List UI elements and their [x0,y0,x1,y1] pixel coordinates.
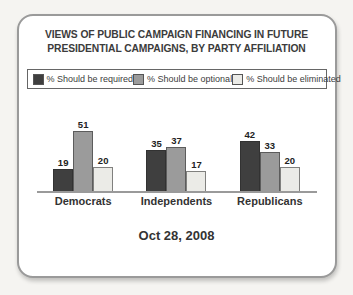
plot-area: 195120353717423320 DemocratsIndependents… [37,113,317,207]
legend-item-2: % Should be optional [133,74,232,85]
bar-group-democrats: 195120 [53,119,113,191]
bar-value-label: 37 [171,135,182,146]
bar-value-label: 33 [265,140,276,151]
bar-republicans-series-3 [280,167,300,191]
bar-independents-series-3 [186,171,206,191]
bar-group-republicans: 423320 [240,129,300,191]
bar-value-label: 35 [151,138,162,149]
bar-column: 19 [53,157,73,191]
chart-title: VIEWS OF PUBLIC CAMPAIGN FINANCING IN FU… [27,28,327,56]
bar-republicans-series-2 [260,152,280,191]
bar-value-label: 20 [98,155,109,166]
bar-groups: 195120353717423320 [37,113,317,191]
date-label: Oct 28, 2008 [27,228,327,243]
bar-value-label: 20 [285,155,296,166]
category-label-republicans: Republicans [223,195,316,207]
bar-column: 35 [146,138,166,191]
legend-item-3: % Should be eliminated [232,74,341,85]
bar-democrats-series-2 [73,131,93,191]
bar-value-label: 19 [58,157,69,168]
bar-independents-series-1 [146,150,166,191]
legend-label: % Should be required [47,74,134,84]
x-axis-line [37,191,317,193]
chart-card: VIEWS OF PUBLIC CAMPAIGN FINANCING IN FU… [17,14,337,278]
bar-column: 17 [186,159,206,191]
bar-republicans-series-1 [240,141,260,191]
legend-swatch-icon [33,74,44,85]
category-label-independents: Independents [130,195,223,207]
chart-title-line-1: VIEWS OF PUBLIC CAMPAIGN FINANCING IN FU… [27,28,327,42]
legend-swatch-icon [232,74,243,85]
bar-column: 33 [260,140,280,191]
legend-label: % Should be eliminated [246,74,341,84]
legend-item-1: % Should be required [33,74,134,85]
bar-value-label: 17 [191,159,202,170]
bar-value-label: 51 [78,119,89,130]
legend: % Should be required% Should be optional… [27,69,327,89]
bar-value-label: 42 [245,129,256,140]
bar-democrats-series-3 [93,167,113,191]
bar-column: 37 [166,135,186,191]
legend-label: % Should be optional [147,74,232,84]
category-label-democrats: Democrats [37,195,130,207]
bar-column: 51 [73,119,93,191]
chart-title-line-2: PRESIDENTIAL CAMPAIGNS, BY PARTY AFFILIA… [27,42,327,56]
bar-democrats-series-1 [53,169,73,191]
bar-column: 42 [240,129,260,191]
legend-swatch-icon [133,74,144,85]
category-labels: DemocratsIndependentsRepublicans [37,195,317,207]
bar-column: 20 [280,155,300,191]
bar-independents-series-2 [166,147,186,191]
bar-column: 20 [93,155,113,191]
bar-group-independents: 353717 [146,135,206,191]
